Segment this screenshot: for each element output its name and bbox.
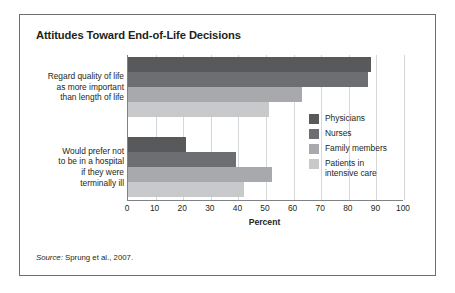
x-axis-tick-label: 10 <box>150 203 159 213</box>
bar <box>128 152 236 167</box>
source-label: Source: <box>36 253 63 262</box>
bar <box>128 72 368 87</box>
gridline <box>404 55 405 200</box>
legend-label: Nurses <box>325 128 352 138</box>
x-axis-tick-label: 0 <box>125 203 130 213</box>
x-axis-tick-label: 90 <box>371 203 380 213</box>
bar <box>128 137 186 152</box>
x-axis-tick-label: 80 <box>343 203 352 213</box>
page-title: Attitudes Toward End-of-Life Decisions <box>36 29 241 41</box>
legend: PhysiciansNursesFamily membersPatients i… <box>309 113 387 183</box>
legend-swatch-icon <box>309 114 319 124</box>
figure-frame: Attitudes Toward End-of-Life Decisions R… <box>19 14 436 276</box>
bar <box>128 57 371 72</box>
legend-swatch-icon <box>309 129 319 139</box>
legend-label: Patients in intensive care <box>325 158 377 179</box>
category-label: Would prefer notto be in a hospitalif th… <box>20 146 124 188</box>
source-citation: Sprung et al., 2007. <box>63 253 133 262</box>
x-axis-tick-label: 50 <box>260 203 269 213</box>
legend-label: Family members <box>325 143 387 153</box>
x-axis-tick-label: 100 <box>396 203 410 213</box>
x-axis-tick-labels: 0102030405060708090100 <box>127 203 402 217</box>
legend-swatch-icon <box>309 144 319 154</box>
x-axis-tick-label: 70 <box>316 203 325 213</box>
x-axis-tick-label: 40 <box>233 203 242 213</box>
legend-item: Family members <box>309 143 387 154</box>
source-note: Source: Sprung et al., 2007. <box>36 253 133 262</box>
legend-item: Patients in intensive care <box>309 158 387 179</box>
bar <box>128 167 272 182</box>
legend-item: Physicians <box>309 113 387 124</box>
x-axis-tick-label: 20 <box>178 203 187 213</box>
bar <box>128 182 244 197</box>
x-axis-tick-label: 30 <box>205 203 214 213</box>
bar-group <box>128 57 403 117</box>
category-label: Regard quality of lifeas more importantt… <box>20 71 124 103</box>
x-axis-tick-label: 60 <box>288 203 297 213</box>
bar <box>128 87 302 102</box>
legend-item: Nurses <box>309 128 387 139</box>
x-axis-title: Percent <box>127 217 402 227</box>
bar <box>128 102 269 117</box>
legend-label: Physicians <box>325 113 365 123</box>
legend-swatch-icon <box>309 159 319 169</box>
category-label-group: Regard quality of lifeas more importantt… <box>20 55 124 200</box>
